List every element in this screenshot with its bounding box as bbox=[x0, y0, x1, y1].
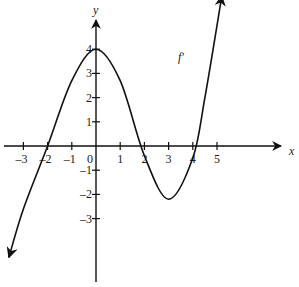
x-axis-label: x bbox=[288, 144, 295, 158]
y-tick-label: 2 bbox=[86, 91, 92, 105]
x-tick-label: –3 bbox=[14, 152, 27, 166]
x-tick-label: 5 bbox=[214, 152, 220, 166]
x-tick-label: 1 bbox=[117, 152, 123, 166]
y-tick-label: –1 bbox=[79, 163, 92, 177]
curve-label: f' bbox=[178, 50, 184, 64]
y-tick-label: 3 bbox=[86, 66, 92, 80]
chart: –3–2–1012345 4321–1–2–3 x y f' bbox=[0, 0, 299, 287]
y-axis-label: y bbox=[92, 3, 99, 17]
x-tick-label: 3 bbox=[166, 152, 172, 166]
f-prime-curve bbox=[9, 0, 222, 257]
y-ticks: 4321–1–2–3 bbox=[79, 42, 100, 225]
x-tick-label: –1 bbox=[63, 152, 76, 166]
y-tick-label: 1 bbox=[86, 115, 92, 129]
y-tick-label: –3 bbox=[79, 212, 92, 226]
arrow-down-icon bbox=[9, 251, 11, 257]
y-tick-label: –2 bbox=[79, 187, 92, 201]
